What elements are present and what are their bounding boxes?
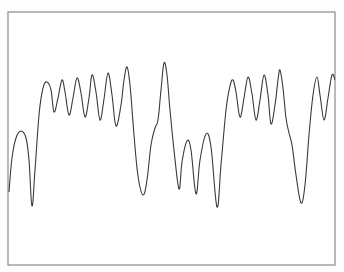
line-chart: [0, 0, 344, 272]
plot-frame: [8, 12, 335, 265]
